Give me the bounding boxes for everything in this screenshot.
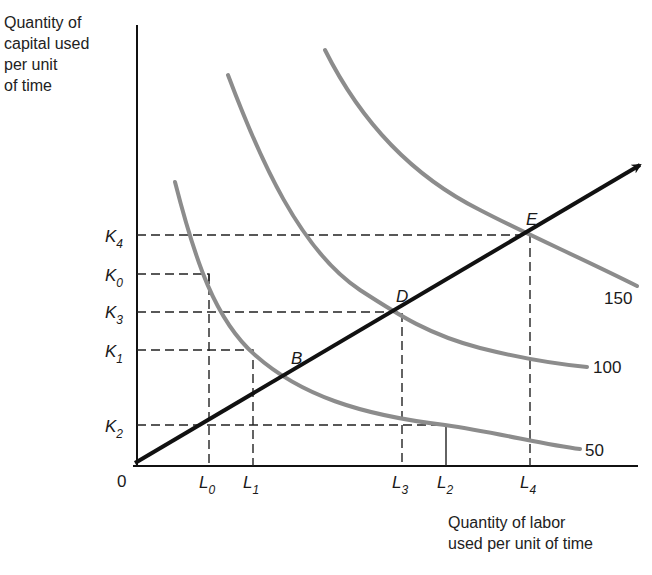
l1-label: L1 bbox=[243, 473, 259, 497]
l-labels: L0 L1 L3 L2 L4 bbox=[199, 473, 536, 497]
isoquant-label-50: 50 bbox=[585, 441, 604, 460]
point-label-e: E bbox=[526, 210, 538, 229]
point-label-d: D bbox=[396, 287, 408, 306]
isoquant-label-150: 150 bbox=[604, 289, 632, 308]
isoquant-50 bbox=[175, 182, 580, 449]
k3-label: K3 bbox=[105, 303, 123, 327]
k2-label: K2 bbox=[105, 417, 123, 441]
isoquant-label-100: 100 bbox=[593, 358, 621, 377]
isoquant-150 bbox=[325, 50, 637, 286]
l2-label: L2 bbox=[437, 473, 453, 497]
expansion-path-ray bbox=[135, 165, 640, 463]
l4-label: L4 bbox=[520, 473, 536, 497]
origin-label: 0 bbox=[117, 472, 126, 491]
guide-k0-l0 bbox=[137, 274, 209, 466]
k0-label: K0 bbox=[105, 266, 123, 290]
point-label-b: B bbox=[291, 349, 302, 368]
isoquant-diagram: B D E 50 100 150 0 K4 K0 K3 K1 K2 L0 L1 … bbox=[0, 0, 652, 575]
k1-label: K1 bbox=[105, 342, 123, 366]
l0-label: L0 bbox=[199, 473, 215, 497]
l3-label: L3 bbox=[392, 473, 408, 497]
guide-k1-l1 bbox=[137, 350, 253, 466]
guide-k3-d bbox=[137, 312, 402, 466]
k4-label: K4 bbox=[105, 227, 123, 251]
k-labels: K4 K0 K3 K1 K2 bbox=[105, 227, 123, 441]
